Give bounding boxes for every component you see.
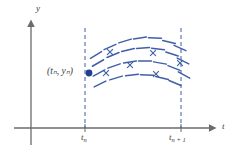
slope-mark-22 bbox=[110, 76, 122, 80]
tick-label-tn-sub: n bbox=[84, 136, 87, 143]
slope-mark-21 bbox=[94, 81, 106, 87]
slope-mark-6 bbox=[174, 45, 186, 50]
x-marker-0 bbox=[107, 49, 112, 54]
initial-point-dot bbox=[86, 70, 93, 77]
slope-mark-23 bbox=[126, 74, 139, 76]
slope-mark-7 bbox=[92, 60, 103, 67]
slope-field-marks bbox=[90, 37, 189, 87]
slope-mark-1 bbox=[104, 44, 116, 49]
slope-mark-16 bbox=[124, 61, 137, 63]
x-marker-4 bbox=[103, 70, 108, 75]
slope-mark-11 bbox=[152, 48, 165, 50]
initial-point-label: (tₙ, yₙ) bbox=[47, 67, 73, 77]
x-marker-3 bbox=[177, 60, 182, 65]
x-marker-2 bbox=[127, 62, 132, 67]
slope-mark-10 bbox=[137, 48, 150, 49]
slope-mark-18 bbox=[154, 62, 167, 64]
tick-label-tn-plus-1-sub: n + 1 bbox=[172, 136, 186, 143]
slope-mark-0 bbox=[90, 52, 101, 59]
slope-mark-15 bbox=[108, 64, 120, 68]
direction-field-figure: y t tn tn + 1 (tₙ, yₙ) bbox=[0, 0, 235, 154]
slope-mark-13 bbox=[177, 58, 189, 64]
initial-point-marker bbox=[86, 70, 93, 77]
x-marker-5 bbox=[153, 71, 158, 76]
slope-mark-19 bbox=[168, 66, 180, 71]
slope-mark-3 bbox=[134, 37, 147, 39]
slope-mark-20 bbox=[178, 72, 189, 78]
slope-mark-9 bbox=[122, 49, 135, 52]
t-axis-label: t bbox=[222, 122, 225, 131]
slope-mark-24 bbox=[141, 75, 154, 76]
slope-mark-25 bbox=[156, 77, 169, 80]
slope-mark-26 bbox=[169, 80, 181, 85]
slope-mark-14 bbox=[93, 70, 104, 76]
slope-mark-5 bbox=[163, 40, 176, 43]
plot-canvas bbox=[0, 0, 235, 154]
slope-mark-2 bbox=[119, 39, 131, 43]
y-axis-label: y bbox=[36, 4, 40, 13]
tick-label-tn: tn bbox=[81, 133, 87, 142]
dashed-guides bbox=[85, 28, 181, 128]
tick-label-tn-plus-1: tn + 1 bbox=[169, 133, 186, 142]
x-marker-1 bbox=[150, 50, 155, 55]
slope-mark-12 bbox=[166, 52, 178, 56]
